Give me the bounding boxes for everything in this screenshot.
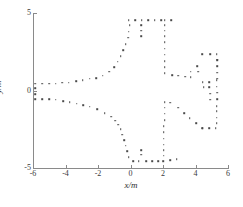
- data-point: [161, 19, 163, 21]
- data-point: [203, 87, 205, 89]
- data-point: [127, 37, 129, 39]
- scatter-plot-figure: -6-4-20246 -505 x/m y/m: [0, 0, 243, 207]
- x-tick-label: 2: [161, 170, 165, 178]
- data-point: [120, 128, 122, 130]
- data-point: [197, 71, 199, 73]
- data-point: [120, 56, 122, 58]
- data-point: [96, 108, 98, 110]
- x-tick-label: 4: [194, 170, 198, 178]
- data-point: [55, 99, 57, 101]
- data-point: [104, 112, 106, 114]
- data-point: [163, 125, 165, 127]
- data-point: [216, 111, 218, 113]
- data-point: [122, 49, 124, 51]
- data-point: [145, 160, 147, 162]
- data-point: [48, 83, 50, 85]
- data-point: [141, 19, 143, 21]
- data-point: [217, 66, 219, 68]
- data-point: [201, 53, 203, 55]
- data-point: [216, 117, 218, 119]
- data-point: [62, 101, 64, 103]
- data-point: [163, 138, 165, 140]
- data-point: [102, 75, 104, 77]
- data-point: [176, 159, 178, 161]
- data-point: [216, 53, 218, 55]
- data-point: [125, 145, 127, 147]
- data-point: [82, 80, 84, 82]
- y-tick-label: 5: [20, 9, 31, 17]
- data-point: [89, 106, 91, 108]
- data-point: [117, 61, 119, 63]
- data-point: [154, 19, 156, 21]
- data-point: [140, 149, 142, 151]
- data-point: [123, 139, 125, 141]
- data-point: [128, 156, 130, 158]
- data-point: [163, 155, 165, 157]
- data-point: [202, 81, 204, 83]
- data-point: [216, 80, 218, 82]
- data-point: [35, 94, 37, 96]
- data-point: [209, 87, 211, 89]
- data-point: [170, 19, 172, 21]
- data-point: [163, 149, 165, 151]
- data-point: [140, 35, 142, 37]
- data-point: [83, 104, 85, 106]
- data-point: [126, 150, 128, 152]
- y-axis-label: y/m: [0, 81, 3, 94]
- data-point: [35, 98, 37, 100]
- data-point: [170, 102, 172, 104]
- data-point: [164, 113, 166, 115]
- data-point: [209, 93, 211, 95]
- data-point: [164, 101, 166, 103]
- data-point: [216, 86, 218, 88]
- data-point: [196, 122, 198, 124]
- x-axis-label: x/m: [33, 180, 229, 190]
- data-point: [35, 83, 37, 85]
- x-tick-label: 0: [129, 170, 133, 178]
- data-point: [217, 72, 219, 74]
- data-point: [189, 118, 191, 120]
- data-point: [140, 25, 142, 27]
- data-point: [140, 30, 142, 32]
- data-point: [183, 112, 185, 114]
- data-point: [55, 83, 57, 85]
- x-tick-label: 6: [226, 170, 230, 178]
- data-point: [69, 101, 71, 103]
- data-point: [35, 87, 37, 89]
- data-point: [140, 154, 142, 156]
- data-point: [89, 78, 91, 80]
- data-point: [68, 82, 70, 84]
- data-point: [128, 19, 130, 21]
- data-point: [163, 132, 165, 134]
- data-point: [171, 74, 173, 76]
- x-tick-label: -4: [62, 170, 69, 178]
- data-point: [217, 78, 219, 80]
- data-point: [162, 160, 164, 162]
- y-tick-label: -5: [20, 164, 31, 172]
- data-point: [132, 160, 134, 162]
- data-point: [190, 77, 192, 79]
- data-point: [61, 82, 63, 84]
- data-point: [41, 98, 43, 100]
- data-point: [157, 160, 159, 162]
- x-tick-mark: [228, 165, 229, 168]
- data-point: [164, 48, 166, 50]
- data-point: [135, 19, 137, 21]
- x-tick-label: -2: [95, 170, 102, 178]
- data-point: [164, 25, 166, 27]
- data-point: [164, 42, 166, 44]
- data-point: [217, 98, 219, 100]
- data-point: [76, 103, 78, 105]
- y-tick-label: 0: [20, 87, 31, 95]
- data-point: [41, 83, 43, 85]
- y-tick-mark: [34, 168, 37, 169]
- data-point: [164, 66, 166, 68]
- data-point: [152, 160, 154, 162]
- data-point: [96, 77, 98, 79]
- plot-data-area: [33, 13, 228, 168]
- data-point: [164, 54, 166, 56]
- data-point: [110, 116, 112, 118]
- data-point: [122, 134, 124, 136]
- data-point: [128, 31, 130, 33]
- data-point: [164, 30, 166, 32]
